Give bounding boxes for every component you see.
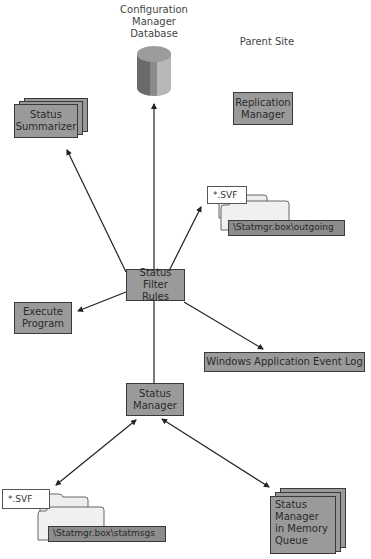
status-manager-node[interactable]: Status Manager — [126, 383, 184, 416]
node-label: in Memory — [275, 523, 328, 535]
database-label: Configuration Manager Database — [114, 4, 194, 40]
database-cylinder-icon — [137, 46, 171, 96]
node-label: Status — [133, 388, 177, 400]
windows-event-log-node[interactable]: Windows Application Event Log — [204, 352, 365, 372]
node-label: Manager — [275, 511, 328, 523]
memory-queue-node[interactable]: Status Manager in Memory Queue — [270, 488, 348, 554]
node-label: Rules — [127, 291, 184, 303]
statmsgs-path-label: \Statmgr.box\statmsgs — [48, 526, 166, 542]
node-label: Queue — [275, 535, 328, 547]
execute-program-node[interactable]: Execute Program — [14, 302, 72, 334]
database-label-line: Database — [114, 28, 194, 40]
node-label: Status — [275, 499, 328, 511]
node-label: Status Filter — [127, 267, 184, 291]
connector-lines — [0, 0, 371, 559]
node-label: Manager — [235, 109, 290, 121]
outgoing-path-label: \Statmgr.box\outgoing — [228, 220, 345, 236]
database-label-line: Manager — [114, 16, 194, 28]
node-label: Manager — [133, 400, 177, 412]
node-label: Program — [22, 318, 64, 330]
status-filter-rules-node[interactable]: Status Filter Rules — [126, 269, 185, 301]
stack-front: Status Manager in Memory Queue — [270, 496, 336, 554]
node-label: Execute — [22, 306, 64, 318]
stack-front: Status Summarizer — [14, 104, 78, 138]
database-label-line: Configuration — [114, 4, 194, 16]
node-label: Replication — [235, 97, 290, 109]
node-label: Summarizer — [16, 121, 77, 133]
outgoing-svf-file: *.SVF — [207, 186, 247, 204]
parent-site-label: Parent Site — [232, 36, 302, 48]
replication-manager-node[interactable]: Replication Manager — [233, 92, 293, 125]
statmsgs-svf-file: *.SVF — [2, 489, 50, 509]
node-label: Status — [16, 109, 77, 121]
status-summarizer-node[interactable]: Status Summarizer — [14, 98, 90, 138]
diagram-canvas: Configuration Manager Database Parent Si… — [0, 0, 371, 559]
